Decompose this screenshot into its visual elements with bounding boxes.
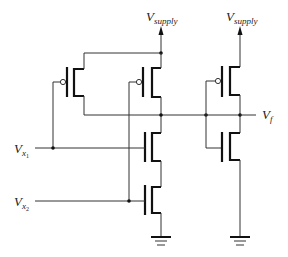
input-x2-wire	[35, 82, 145, 203]
vx2-label: Vx2	[14, 194, 29, 212]
junction-dot	[159, 113, 163, 117]
ground-icon	[151, 237, 171, 245]
vsupply-right-label: Vsupply	[226, 9, 257, 26]
nmos-n2	[145, 185, 161, 237]
circuit-diagram: Vsupply Vsupply Vx1 Vx2 Vf	[0, 0, 288, 257]
vx1-label: Vx1	[14, 141, 29, 159]
vf-label: Vf	[262, 107, 274, 124]
supply-arrow-right-icon	[238, 26, 243, 67]
pmos-p1	[53, 53, 84, 115]
nmos-n3	[222, 132, 240, 237]
pmos-p3	[206, 66, 240, 133]
pmos-p2	[129, 53, 161, 133]
supply-arrow-left-icon	[159, 26, 164, 53]
ground-icon	[230, 237, 250, 245]
nmos-n1	[145, 132, 161, 187]
vsupply-left-label: Vsupply	[146, 9, 177, 26]
